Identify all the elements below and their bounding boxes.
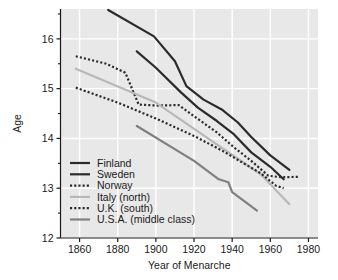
legend-label: Norway <box>97 179 133 191</box>
line-chart-svg: 12131415161860188019001920194019601980 Y… <box>0 0 338 280</box>
y-tick-label: 12 <box>42 232 54 244</box>
y-tick-label: 14 <box>42 132 54 144</box>
x-tick-label: 1900 <box>144 243 168 255</box>
legend-label: Finland <box>97 157 132 169</box>
x-tick-label: 1920 <box>182 243 206 255</box>
y-axis-title: Age <box>11 114 23 133</box>
chart-figure: 12131415161860188019001920194019601980 Y… <box>0 0 338 280</box>
y-tick-label: 15 <box>42 82 54 94</box>
x-tick-label: 1860 <box>68 243 92 255</box>
legend-label: Sweden <box>97 168 135 180</box>
legend-label: U.K. (south) <box>97 202 153 214</box>
y-tick-label: 16 <box>42 33 54 45</box>
x-tick-label: 1880 <box>106 243 130 255</box>
x-tick-label: 1960 <box>259 243 283 255</box>
legend-label: Italy (north) <box>97 191 150 203</box>
x-tick-label: 1940 <box>220 243 244 255</box>
legend-label: U.S.A. (middle class) <box>97 213 195 225</box>
y-tick-label: 13 <box>42 182 54 194</box>
x-tick-label: 1980 <box>297 243 321 255</box>
x-axis-title: Year of Menarche <box>148 259 231 271</box>
